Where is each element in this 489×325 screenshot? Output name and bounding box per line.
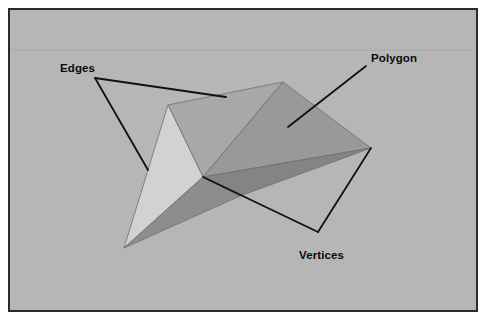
figure-frame: Edges Polygon Vertices <box>8 8 478 312</box>
label-polygon: Polygon <box>371 52 417 64</box>
label-vertices: Vertices <box>299 249 344 261</box>
figure-root: Edges Polygon Vertices <box>0 0 489 325</box>
label-edges: Edges <box>60 62 95 74</box>
polygon-mesh-diagram: Edges Polygon Vertices <box>10 10 476 310</box>
